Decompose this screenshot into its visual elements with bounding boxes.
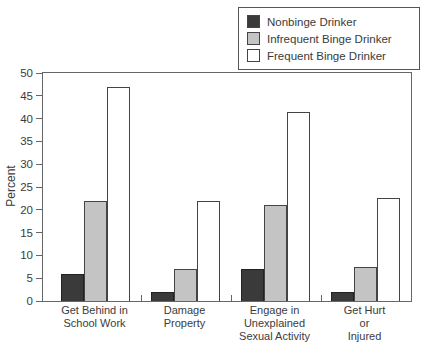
category-label: Get Behind in School Work [61, 304, 128, 330]
y-tick [36, 232, 42, 233]
bar-series1-group1 [174, 269, 197, 301]
category-label: Damage Property [164, 304, 206, 330]
x-divider-tick [141, 295, 142, 301]
y-tick-label: 30 [6, 158, 33, 170]
x-divider-tick [321, 295, 322, 301]
y-tick-label: 40 [6, 113, 33, 125]
y-tick [36, 164, 42, 165]
category-label: Get Hurt or Injured [342, 304, 388, 343]
y-tick-label: 5 [6, 272, 33, 284]
category-label: Engage in Unexplained Sexual Activity [239, 304, 310, 343]
bar-series0-group2 [241, 269, 264, 301]
y-tick-label: 45 [6, 90, 33, 102]
bar-series2-group0 [107, 87, 130, 301]
y-tick [36, 255, 42, 256]
y-tick-label: 50 [6, 67, 33, 79]
x-divider-tick [231, 295, 232, 301]
y-tick [36, 141, 42, 142]
legend-swatch-infrequent [247, 32, 260, 45]
bar-series1-group0 [84, 201, 107, 301]
y-tick [36, 73, 42, 74]
legend-swatch-nonbinge [247, 15, 260, 28]
plot-area: 05101520253035404550 [42, 72, 412, 302]
y-tick-label: 10 [6, 249, 33, 261]
y-tick [36, 209, 42, 210]
y-tick [36, 301, 42, 302]
y-tick-label: 25 [6, 181, 33, 193]
bar-series1-group2 [264, 205, 287, 301]
bar-series2-group3 [377, 198, 400, 301]
y-tick [36, 187, 42, 188]
y-tick-label: 20 [6, 204, 33, 216]
y-tick [36, 95, 42, 96]
y-tick-label: 35 [6, 135, 33, 147]
legend-label-nonbinge: Nonbinge Drinker [267, 16, 357, 28]
legend-swatch-frequent [247, 49, 260, 62]
bar-series2-group1 [197, 201, 220, 301]
bar-series2-group2 [287, 112, 310, 301]
y-tick [36, 278, 42, 279]
legend-label-infrequent: Infrequent Binge Drinker [267, 33, 392, 45]
legend-item-frequent: Frequent Binge Drinker [247, 47, 413, 64]
figure: Nonbinge Drinker Infrequent Binge Drinke… [0, 0, 424, 357]
bar-series0-group3 [331, 292, 354, 301]
legend-item-nonbinge: Nonbinge Drinker [247, 13, 413, 30]
x-axis-labels: Get Behind in School WorkDamage Property… [42, 304, 410, 354]
legend: Nonbinge Drinker Infrequent Binge Drinke… [238, 7, 420, 70]
legend-label-frequent: Frequent Binge Drinker [267, 50, 386, 62]
bar-series1-group3 [354, 267, 377, 301]
y-tick-label: 0 [6, 295, 33, 307]
bar-series0-group1 [151, 292, 174, 301]
legend-item-infrequent: Infrequent Binge Drinker [247, 30, 413, 47]
y-tick-label: 15 [6, 227, 33, 239]
bar-series0-group0 [61, 274, 84, 301]
y-tick [36, 118, 42, 119]
